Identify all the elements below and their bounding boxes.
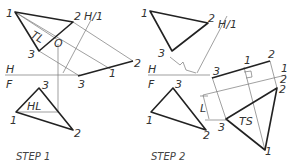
- descriptive-geometry-diagram: 1 2 H/1 3 TL O H F 3 1 2 3 1 2 HL STEP 1…: [0, 0, 298, 167]
- step-2: 1 2 H/1 3 H F 3 1 2 1 2 3 1 2 L 3 2 1 TS…: [141, 7, 288, 162]
- projector-3: [39, 51, 78, 75]
- front-view-triangle: [16, 88, 73, 130]
- label: 2: [268, 48, 275, 61]
- projector-3: [212, 77, 226, 119]
- label: TL: [29, 28, 47, 46]
- label: 3: [78, 78, 85, 91]
- label: 3: [158, 47, 165, 60]
- projector-2: [270, 61, 277, 88]
- label: 2: [279, 83, 286, 96]
- label: 1: [146, 114, 153, 127]
- label: H/1: [218, 18, 237, 31]
- label: 1: [6, 7, 13, 20]
- label: 3: [28, 48, 35, 61]
- label: L: [200, 102, 206, 115]
- label: 1: [244, 54, 251, 67]
- step-1: 1 2 H/1 3 TL O H F 3 1 2 3 1 2 HL STEP 1: [5, 7, 141, 162]
- label: HL: [27, 100, 41, 113]
- label: H: [6, 63, 14, 76]
- step-1-caption: STEP 1: [16, 151, 50, 162]
- label: O: [54, 37, 63, 50]
- label: 3: [218, 121, 225, 134]
- projector-1: [244, 67, 265, 150]
- edge-view-line: [212, 61, 270, 78]
- right-angle-mark: [244, 71, 252, 78]
- label: 1: [265, 145, 272, 158]
- label: 3: [42, 79, 49, 92]
- label: 3: [213, 65, 220, 78]
- label: 1: [10, 114, 17, 127]
- label: 2: [74, 127, 81, 140]
- edge-view-line: [78, 61, 133, 76]
- projector-2: [73, 22, 133, 61]
- top-view-triangle: [150, 11, 208, 51]
- label: H: [148, 63, 156, 76]
- label: 2: [74, 10, 81, 23]
- label: 3: [175, 78, 182, 91]
- label: 1: [109, 67, 116, 80]
- label: 2: [203, 129, 210, 142]
- dimension-break: [170, 57, 196, 73]
- step-2-caption: STEP 2: [151, 151, 185, 162]
- label: F: [148, 78, 155, 91]
- fold-line-12: [203, 75, 286, 95]
- label: 2: [208, 12, 215, 25]
- front-view-triangle: [151, 88, 206, 130]
- label: 1: [141, 7, 148, 20]
- label: TS: [239, 115, 253, 128]
- label: H/1: [84, 10, 103, 23]
- label: 2: [134, 57, 141, 70]
- label: F: [6, 78, 13, 91]
